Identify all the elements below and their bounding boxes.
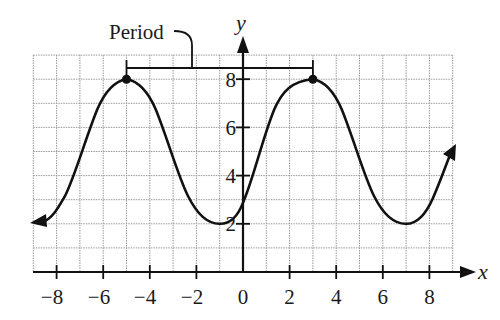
x-tick-label: 6 [378, 285, 389, 309]
period-leader-line [174, 31, 192, 68]
x-axis-label: x [477, 259, 488, 284]
y-axis-label: y [234, 10, 246, 35]
x-tick-label: −2 [181, 285, 203, 309]
y-axis [236, 36, 250, 272]
y-tick-label: 8 [226, 68, 237, 92]
x-tick-label: 4 [331, 285, 342, 309]
chart-figure: Period y x 2 4 6 8 −8 −6 −4 −2 0 2 4 6 8 [0, 0, 500, 320]
x-tick-label: −4 [134, 285, 157, 309]
max-point-left [122, 75, 131, 84]
x-tick-label: 2 [284, 285, 295, 309]
y-axis-arrow-icon [237, 36, 249, 53]
period-label: Period [109, 20, 164, 44]
y-tick-label: 2 [226, 212, 237, 236]
x-tick-label: 0 [238, 285, 249, 309]
x-tick-labels: −8 −6 −4 −2 0 2 4 6 8 [41, 285, 435, 309]
y-tick-label: 4 [226, 164, 237, 188]
y-tick-label: 6 [226, 116, 237, 140]
x-tick-label: −8 [41, 285, 63, 309]
max-point-right [308, 75, 317, 84]
x-tick-label: −6 [88, 285, 110, 309]
x-tick-label: 8 [424, 285, 435, 309]
x-axis-arrow-icon [460, 266, 476, 278]
x-axis [33, 265, 476, 279]
curve-left-arrow-icon [30, 214, 47, 227]
